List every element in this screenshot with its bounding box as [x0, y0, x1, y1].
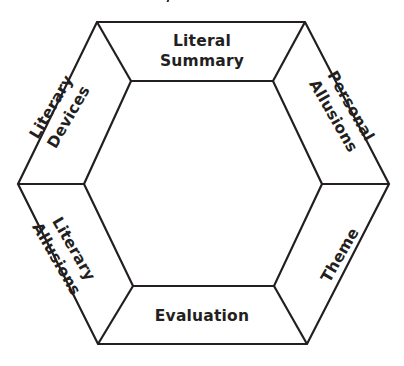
segment-label-line: Evaluation [155, 307, 249, 325]
divider-bottom-right [274, 286, 307, 344]
inner-hexagon [84, 81, 322, 286]
segment-label-line: Literal [142, 31, 262, 51]
segment-label-line: Summary [142, 51, 262, 71]
segment-literal-summary: Literal Summary [142, 31, 262, 71]
segment-evaluation: Evaluation [142, 306, 262, 326]
